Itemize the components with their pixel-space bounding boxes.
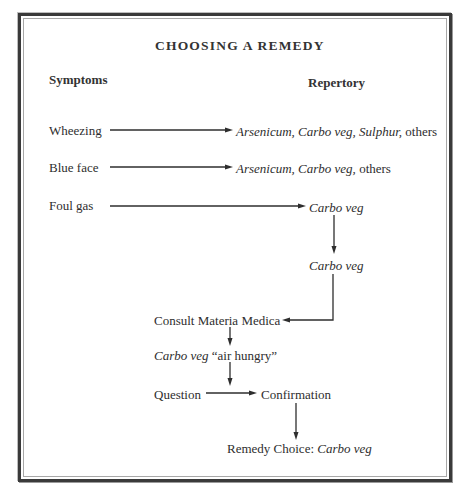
remedies-wheezing-italic: Arsenicum, Carbo veg, Sulphur, <box>236 124 402 139</box>
arrow-wheezing <box>110 128 233 133</box>
remedy-choice-value: Carbo veg <box>317 441 372 456</box>
symptom-blue-face: Blue face <box>49 161 98 174</box>
consult-materia-medica: Consult Materia Medica <box>154 314 280 327</box>
materia-finding-note: “air hungry” <box>209 348 278 363</box>
intersection-remedy: Carbo veg <box>309 259 364 272</box>
arrow-consult-down <box>228 327 233 346</box>
arrow-blue-face <box>110 165 233 170</box>
remedies-blue-face-italic: Arsenicum, Carbo veg, <box>236 161 356 176</box>
remedies-blue-face: Arsenicum, Carbo veg, others <box>236 162 391 175</box>
arrow-foul-gas <box>110 204 306 209</box>
question-step: Question <box>154 388 201 401</box>
arrow-confirmation-down <box>294 403 299 440</box>
symptom-wheezing: Wheezing <box>49 124 102 137</box>
remedies-wheezing: Arsenicum, Carbo veg, Sulphur, others <box>236 125 437 138</box>
remedies-wheezing-suffix: others <box>402 124 437 139</box>
remedy-choice: Remedy Choice: Carbo veg <box>227 442 372 455</box>
materia-medica-finding: Carbo veg “air hungry” <box>154 349 277 362</box>
remedies-foul-gas: Carbo veg <box>309 201 364 214</box>
arrow-to-consult <box>282 274 333 323</box>
remedy-choice-label: Remedy Choice: <box>227 441 317 456</box>
diagram-title: CHOOSING A REMEDY <box>155 39 325 53</box>
confirmation-step: Confirmation <box>261 388 331 401</box>
arrow-air-hungry-down <box>228 362 233 386</box>
remedies-blue-face-suffix: others <box>356 161 391 176</box>
header-repertory: Repertory <box>308 76 365 89</box>
arrow-question-to-confirmation <box>206 391 257 396</box>
header-symptoms: Symptoms <box>49 73 108 86</box>
arrow-down-carbo-veg <box>332 215 337 254</box>
materia-finding-remedy: Carbo veg <box>154 348 209 363</box>
symptom-foul-gas: Foul gas <box>49 199 93 212</box>
